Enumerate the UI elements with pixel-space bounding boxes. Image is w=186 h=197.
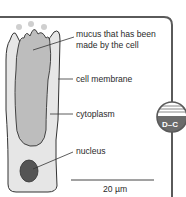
badge-label: D–C [162, 120, 178, 130]
label-nucleus: nucleus [76, 146, 106, 156]
mucus-droplet [16, 24, 22, 30]
label-cytoplasm: cytoplasm [76, 109, 115, 119]
mucus-droplet [41, 24, 47, 30]
label-mucus-line2: made by the cell [76, 40, 139, 50]
scale-bar-label: 20 µm [103, 184, 127, 194]
nucleus [20, 160, 38, 182]
label-mucus-line1: mucus that has been [76, 29, 156, 39]
mucus-droplet [28, 21, 34, 27]
label-cell-membrane: cell membrane [76, 74, 132, 84]
mucus-region [15, 29, 51, 146]
